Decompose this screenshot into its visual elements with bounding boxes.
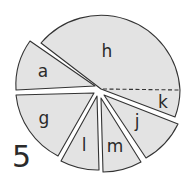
figure-number: 5 xyxy=(12,139,31,174)
label-k: k xyxy=(158,92,168,112)
pie-diagram: h k a g l m j 5 xyxy=(0,0,191,178)
label-j: j xyxy=(134,111,140,131)
label-m: m xyxy=(107,136,124,156)
label-l: l xyxy=(82,135,87,155)
label-h: h xyxy=(102,41,113,61)
label-a: a xyxy=(38,61,48,81)
label-g: g xyxy=(39,108,50,128)
